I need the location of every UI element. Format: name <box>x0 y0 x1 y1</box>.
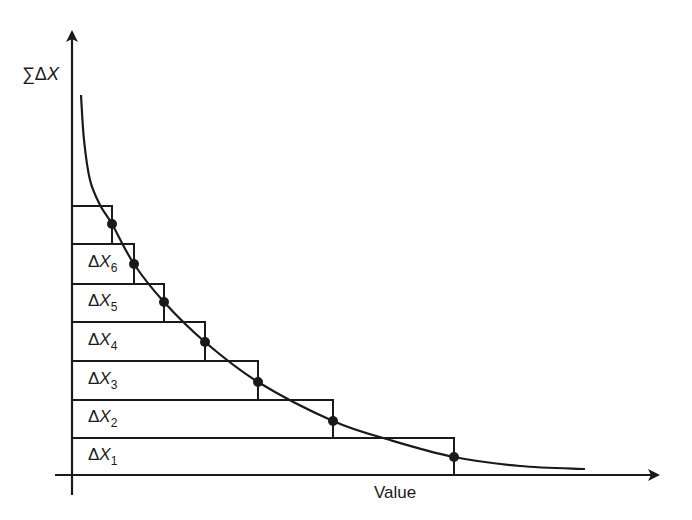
variable-x: X <box>99 252 110 271</box>
step-bar <box>72 206 112 244</box>
subscript: 3 <box>111 378 118 392</box>
subscript: 6 <box>111 261 118 275</box>
variable-x: X <box>99 330 110 349</box>
bar-label-delta-x5: ΔX5 <box>88 292 117 311</box>
x-axis-label: Value <box>374 483 416 503</box>
curve-point-dot <box>107 219 117 229</box>
sigma-symbol: ∑ <box>22 64 35 84</box>
delta-symbol: Δ <box>88 445 99 464</box>
curve-point-dot <box>449 452 459 462</box>
curve-point-dot <box>253 377 263 387</box>
variable-x: X <box>99 407 110 426</box>
bar-label-delta-x6: ΔX6 <box>88 253 117 272</box>
step-bars <box>72 206 454 475</box>
variable-x: X <box>99 291 110 310</box>
subscript: 4 <box>111 339 118 353</box>
curve-point-dot <box>159 297 169 307</box>
cumulative-step-diagram: ∑ΔX Value ΔX6ΔX5ΔX4ΔX3ΔX2ΔX1 <box>0 0 692 520</box>
variable-x: X <box>47 64 59 84</box>
delta-symbol: Δ <box>88 369 99 388</box>
variable-x: X <box>99 369 110 388</box>
bar-label-delta-x1: ΔX1 <box>88 446 117 465</box>
delta-symbol: Δ <box>88 330 99 349</box>
y-axis-label: ∑ΔX <box>22 64 59 85</box>
subscript: 1 <box>111 454 118 468</box>
delta-symbol: Δ <box>88 291 99 310</box>
step-bar <box>72 438 454 475</box>
curve-point-dot <box>200 337 210 347</box>
variable-x: X <box>99 445 110 464</box>
subscript: 5 <box>111 300 118 314</box>
delta-symbol: Δ <box>35 64 47 84</box>
bar-label-delta-x2: ΔX2 <box>88 408 117 427</box>
delta-symbol: Δ <box>88 252 99 271</box>
bar-label-delta-x4: ΔX4 <box>88 331 117 350</box>
delta-symbol: Δ <box>88 407 99 426</box>
step-bar <box>72 284 164 322</box>
bar-label-delta-x3: ΔX3 <box>88 370 117 389</box>
curve-point-dot <box>328 416 338 426</box>
curve-point-dot <box>129 259 139 269</box>
curve-dots <box>107 219 459 462</box>
subscript: 2 <box>111 416 118 430</box>
axes <box>55 32 658 495</box>
